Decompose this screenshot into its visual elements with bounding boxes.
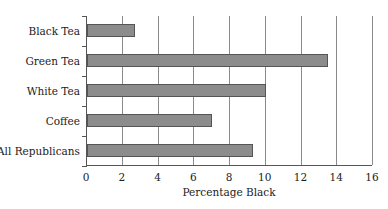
x-tick-label: 16	[365, 171, 378, 183]
x-axis-title: Percentage Black	[182, 186, 275, 198]
y-tick	[82, 166, 87, 167]
bar-coffee	[87, 114, 212, 127]
bar-green-tea	[87, 54, 328, 67]
y-tick	[82, 106, 87, 107]
x-tick-label: 12	[294, 171, 307, 183]
y-tick	[82, 136, 87, 137]
plot-area	[86, 16, 372, 166]
x-tick-label: 4	[154, 171, 161, 183]
x-tick-label: 10	[258, 171, 271, 183]
x-tick-label: 14	[330, 171, 343, 183]
y-tick	[82, 76, 87, 77]
y-category-label: All Republicans	[0, 145, 80, 157]
x-tick-label: 6	[190, 171, 197, 183]
y-category-label: Green Tea	[25, 55, 80, 67]
bar-white-tea	[87, 84, 266, 97]
x-tick-label: 8	[226, 171, 233, 183]
bar-all-republicans	[87, 144, 253, 157]
y-category-label: Black Tea	[28, 25, 80, 37]
y-tick	[82, 46, 87, 47]
y-category-label: Coffee	[46, 115, 80, 127]
gridline	[336, 16, 337, 165]
gridline	[372, 16, 373, 165]
bar-black-tea	[87, 24, 135, 37]
y-category-label: White Tea	[27, 85, 80, 97]
y-tick	[82, 16, 87, 17]
x-tick-label: 2	[118, 171, 125, 183]
gridline	[301, 16, 302, 165]
x-tick-label: 0	[83, 171, 90, 183]
